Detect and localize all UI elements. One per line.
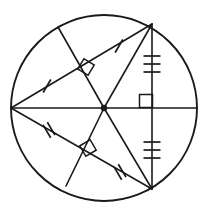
upper-perpendicular [58,27,104,108]
center-to-bottom-radius [104,108,152,189]
tick-upper-chord-left [43,80,51,93]
right-angle-center-square [140,95,153,108]
right-angle-center [140,95,153,108]
lower-perpendicular [66,108,104,186]
point-layer [101,105,107,111]
geometry-figure [0,0,207,216]
upper-chord [11,24,152,108]
tick-upper-chord-left-stroke [43,80,51,93]
tick-lower-chord-right [114,164,126,179]
geometry-canvas [0,0,207,216]
center-to-top-radius [104,24,152,108]
center-dot [101,105,107,111]
